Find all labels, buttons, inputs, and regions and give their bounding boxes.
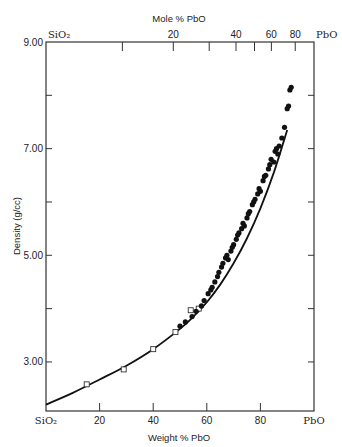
top-tick-label: 80 — [290, 29, 302, 40]
filled-circle-point — [226, 257, 231, 262]
open-square-point — [173, 330, 178, 335]
filled-circle-point — [242, 223, 247, 228]
x-axis-title: Weight % PbO — [148, 432, 210, 443]
filled-circle-point — [258, 189, 263, 194]
x-tick-label: 40 — [148, 415, 160, 426]
top-tick-label: 40 — [230, 29, 242, 40]
filled-circle-point — [247, 209, 252, 214]
filled-circle-point — [277, 143, 282, 148]
filled-circle-point — [279, 135, 284, 140]
x-tick-label: 20 — [94, 415, 106, 426]
y-tick-label: 3.00 — [24, 356, 44, 367]
open-square-point — [121, 367, 126, 372]
filled-circle-point — [263, 173, 268, 178]
density-chart: SiO₂20406080PbOSiO₂20406080PbO9.007.005.… — [0, 0, 342, 447]
top-tick-label: PbO — [316, 29, 337, 40]
open-square-point — [84, 382, 89, 387]
open-square-point — [188, 308, 193, 313]
y-tick-label: 7.00 — [24, 143, 44, 154]
filled-circle-point — [275, 151, 280, 156]
y-tick-label: 9.00 — [24, 37, 44, 48]
filled-circle-point — [212, 279, 217, 284]
x-tick-label: 80 — [255, 415, 267, 426]
plot-frame — [46, 42, 314, 411]
filled-circle-point — [210, 285, 215, 290]
top-tick-label: 60 — [266, 29, 278, 40]
filled-circle-point — [202, 298, 207, 303]
filled-circle-point — [271, 159, 276, 164]
y-tick-label: 5.00 — [24, 250, 44, 261]
x-tick-label: PbO — [303, 415, 324, 426]
filled-circle-point — [220, 261, 225, 266]
filled-circle-point — [189, 314, 194, 319]
top-tick-label: 20 — [168, 29, 180, 40]
top-axis-title: Mole % PbO — [152, 13, 205, 24]
open-square-point — [151, 347, 156, 352]
filled-circle-point — [216, 270, 221, 275]
filled-circle-point — [289, 85, 294, 90]
filled-circle-point — [282, 125, 287, 130]
filled-circle-point — [286, 103, 291, 108]
filled-circle-point — [252, 197, 257, 202]
filled-circle-point — [177, 324, 182, 329]
top-tick-label: SiO₂ — [48, 29, 70, 40]
filled-circle-point — [193, 309, 198, 314]
filled-circle-point — [199, 303, 204, 308]
y-axis-title: Density (g/cc) — [11, 197, 22, 255]
fit-curve — [46, 130, 287, 405]
x-tick-label: 60 — [201, 415, 213, 426]
x-tick-label: SiO₂ — [35, 415, 57, 426]
filled-circle-point — [183, 319, 188, 324]
filled-circle-point — [231, 242, 236, 247]
